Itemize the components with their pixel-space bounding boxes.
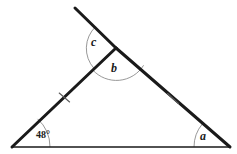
angle-label-b: b xyxy=(111,62,117,74)
angle-label-48-degrees: 48° xyxy=(36,130,50,140)
triangle-strokes xyxy=(12,8,230,147)
arc-angle-b xyxy=(93,65,144,80)
segment-right-side xyxy=(116,48,230,147)
angle-label-c: c xyxy=(91,36,96,48)
geometry-figure: a b c 48° xyxy=(0,0,237,154)
tick-right-side xyxy=(168,94,179,104)
congruence-ticks xyxy=(59,93,178,104)
angle-label-a: a xyxy=(200,130,206,142)
angle-arcs xyxy=(38,27,203,147)
